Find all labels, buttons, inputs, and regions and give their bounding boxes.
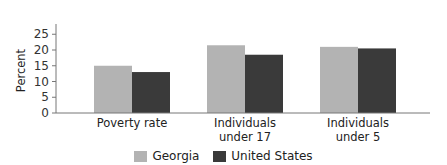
bar-georgia <box>94 66 132 113</box>
legend-item-georgia: Georgia <box>134 149 199 163</box>
legend-swatch-united-states <box>213 151 226 162</box>
bar-united-states <box>132 72 170 113</box>
legend-label-georgia: Georgia <box>152 149 199 163</box>
y-tick-label: 0 <box>41 106 49 120</box>
bar-georgia <box>320 47 358 113</box>
y-tick-label: 10 <box>34 75 49 89</box>
x-category-label: under 5 <box>336 130 381 144</box>
x-category-label: Individuals <box>214 116 276 130</box>
y-axis: 0510152025Percent <box>14 24 56 120</box>
bar-chart: 0510152025Percent Poverty rateIndividual… <box>0 0 447 165</box>
y-axis-label: Percent <box>14 48 28 92</box>
legend-label-united-states: United States <box>231 149 312 163</box>
x-category-label: Poverty rate <box>97 116 168 130</box>
legend-item-united-states: United States <box>213 149 312 163</box>
legend-swatch-georgia <box>134 151 147 162</box>
bars <box>94 45 396 113</box>
x-axis: Poverty rateIndividualsunder 17Individua… <box>56 113 430 144</box>
y-tick-label: 20 <box>34 43 49 57</box>
y-tick-label: 25 <box>34 27 49 41</box>
bar-united-states <box>358 48 396 113</box>
legend: Georgia United States <box>0 149 447 165</box>
y-tick-label: 15 <box>34 59 49 73</box>
bar-united-states <box>245 55 283 113</box>
bar-georgia <box>207 45 245 113</box>
x-category-label: Individuals <box>327 116 389 130</box>
x-category-label: under 17 <box>219 130 271 144</box>
y-tick-label: 5 <box>41 90 49 104</box>
